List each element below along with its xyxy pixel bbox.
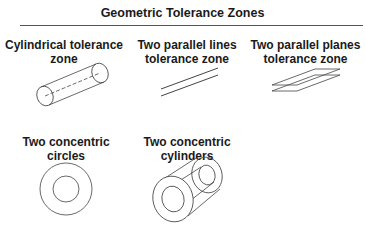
cylinder-back-end xyxy=(89,61,111,85)
back-inner-ellipse xyxy=(197,163,218,186)
inner-circle xyxy=(53,176,79,202)
concentric-circles-shape xyxy=(40,163,92,215)
plane-top xyxy=(272,69,340,85)
cylinder-bottom-edge xyxy=(49,82,104,105)
cylinder-shape xyxy=(34,61,111,108)
cylinder-axis xyxy=(45,73,100,96)
parallel-lines-shape xyxy=(161,68,218,96)
cylinder-top-edge xyxy=(41,64,96,87)
front-outer-ellipse xyxy=(148,172,199,227)
back-outer-ellipse xyxy=(188,154,226,197)
diagram-canvas xyxy=(0,0,365,237)
plane-bottom xyxy=(272,75,340,91)
concentric-cylinders-shape xyxy=(148,154,226,227)
parallel-planes-shape xyxy=(272,69,340,91)
outer-circle xyxy=(40,163,92,215)
